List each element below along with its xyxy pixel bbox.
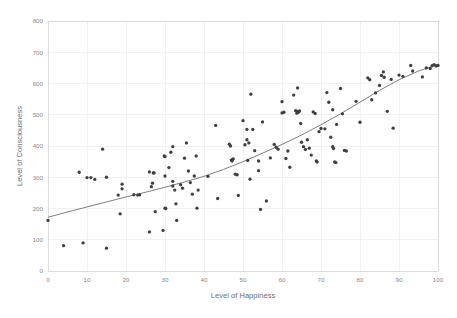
y-tick-label: 300	[33, 174, 44, 181]
data-point	[315, 160, 318, 163]
data-point	[148, 170, 151, 173]
data-point	[257, 169, 260, 172]
data-point	[216, 197, 219, 200]
data-point	[323, 127, 326, 130]
data-point	[368, 78, 371, 81]
data-point	[317, 130, 320, 133]
data-point	[89, 176, 92, 179]
data-point	[171, 145, 174, 148]
data-point	[163, 174, 166, 177]
data-point	[329, 136, 332, 139]
data-point	[171, 184, 174, 187]
data-point	[195, 207, 198, 210]
data-point	[341, 112, 344, 115]
data-point	[245, 138, 248, 141]
x-tick-label: 50	[240, 276, 247, 283]
data-point	[300, 141, 303, 144]
data-point	[401, 75, 404, 78]
data-point	[85, 176, 88, 179]
data-point	[214, 124, 217, 127]
data-point	[105, 176, 108, 179]
data-point	[332, 147, 335, 150]
x-tick-label: 70	[318, 276, 325, 283]
x-tick-label: 60	[279, 276, 286, 283]
data-point	[334, 161, 337, 164]
y-tick-label: 500	[33, 111, 44, 118]
data-point	[245, 128, 248, 131]
data-point	[195, 154, 198, 157]
data-point	[331, 108, 334, 111]
data-point	[197, 188, 200, 191]
data-point	[327, 101, 330, 104]
data-point	[269, 156, 272, 159]
y-tick-label: 100	[33, 236, 44, 243]
x-tick-label: 80	[357, 276, 364, 283]
data-point	[187, 169, 190, 172]
x-tick-label: 90	[396, 276, 403, 283]
data-point	[265, 199, 268, 202]
y-tick-label: 700	[33, 49, 44, 56]
data-point	[93, 178, 96, 181]
data-point	[179, 183, 182, 186]
data-point	[120, 187, 123, 190]
data-point	[62, 244, 65, 247]
x-axis-title: Level of Happiness	[211, 291, 276, 300]
data-point	[282, 111, 285, 114]
data-point	[292, 93, 295, 96]
scatter-chart: 0100200300400500600700800 01020304050607…	[0, 0, 457, 318]
x-tick-label: 40	[201, 276, 208, 283]
data-point	[345, 149, 348, 152]
chart-canvas: 0100200300400500600700800 01020304050607…	[0, 0, 457, 318]
data-point	[189, 181, 192, 184]
data-point	[280, 100, 283, 103]
data-point	[325, 91, 328, 94]
y-tick-label: 800	[33, 17, 44, 24]
data-point	[46, 219, 49, 222]
data-point	[150, 185, 153, 188]
data-point	[248, 177, 251, 180]
data-point	[392, 127, 395, 130]
data-point	[354, 100, 357, 103]
data-point	[152, 171, 155, 174]
data-point	[237, 194, 240, 197]
data-point	[308, 147, 311, 150]
data-point	[161, 229, 164, 232]
x-axis-tick-labels: 0102030405060708090100	[46, 276, 443, 283]
data-point	[169, 151, 172, 154]
data-point	[229, 144, 232, 147]
data-point	[378, 84, 381, 87]
data-point	[241, 119, 244, 122]
data-point	[185, 141, 188, 144]
y-axis-title: Level of Consciousness	[15, 106, 24, 186]
data-point	[175, 219, 178, 222]
data-point	[421, 75, 424, 78]
data-point	[243, 143, 246, 146]
data-point	[310, 153, 313, 156]
x-tick-label: 30	[162, 276, 169, 283]
data-point	[273, 143, 276, 146]
data-point	[174, 202, 177, 205]
data-point	[370, 98, 373, 101]
data-point	[181, 187, 184, 190]
data-point	[119, 212, 122, 215]
data-point	[171, 180, 174, 183]
data-point	[429, 67, 432, 70]
data-point	[298, 109, 301, 112]
y-tick-label: 200	[33, 205, 44, 212]
data-point	[120, 182, 123, 185]
data-point	[382, 70, 385, 73]
data-point	[380, 74, 383, 77]
data-point	[148, 230, 151, 233]
data-point	[193, 174, 196, 177]
data-point	[411, 69, 414, 72]
x-tick-label: 20	[123, 276, 130, 283]
data-point	[249, 92, 252, 95]
data-point	[251, 128, 254, 131]
x-tick-label: 100	[433, 276, 444, 283]
data-point	[390, 78, 393, 81]
data-point	[151, 182, 154, 185]
data-point	[246, 159, 249, 162]
data-point	[236, 173, 239, 176]
data-point	[257, 159, 260, 162]
data-point	[383, 76, 386, 79]
